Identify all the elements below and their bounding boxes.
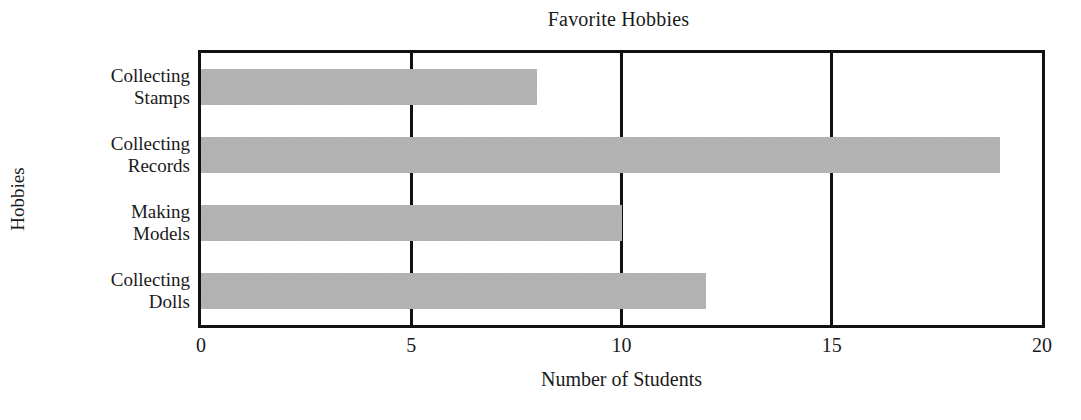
y-axis-tick-label-line: Records: [0, 155, 190, 177]
y-axis-tick-label-line: Models: [0, 223, 190, 245]
bar-chart-figure: Favorite Hobbies Hobbies CollectingStamp…: [0, 0, 1081, 420]
bar: [201, 137, 1000, 173]
x-axis-tick-label-5: 5: [381, 334, 441, 357]
y-axis-tick-label-line: Dolls: [0, 291, 190, 313]
y-axis-tick-label-line: Making: [0, 201, 190, 223]
chart-title: Favorite Hobbies: [0, 8, 1081, 31]
x-axis-tick-label-20: 20: [1012, 334, 1072, 357]
plot-inner: [201, 53, 1042, 325]
y-axis-tick-label-line: Collecting: [0, 133, 190, 155]
y-axis-tick-label: CollectingDolls: [0, 269, 190, 313]
y-axis-tick-label-line: Collecting: [0, 269, 190, 291]
y-axis-tick-label: CollectingStamps: [0, 65, 190, 109]
x-axis-title: Number of Students: [198, 368, 1045, 391]
y-axis-tick-label-line: Stamps: [0, 87, 190, 109]
chart-title-text: Favorite Hobbies: [548, 8, 690, 30]
bar: [201, 205, 622, 241]
x-axis-tick-label-15: 15: [802, 334, 862, 357]
bar: [201, 69, 537, 105]
x-axis-tick-label-0: 0: [171, 334, 231, 357]
y-axis-tick-label: MakingModels: [0, 201, 190, 245]
bar: [201, 273, 706, 309]
gridline-x-15: [830, 53, 833, 325]
plot-area: [198, 50, 1045, 328]
y-axis-tick-label: CollectingRecords: [0, 133, 190, 177]
x-axis-tick-label-10: 10: [592, 334, 652, 357]
y-axis-tick-label-line: Collecting: [0, 65, 190, 87]
